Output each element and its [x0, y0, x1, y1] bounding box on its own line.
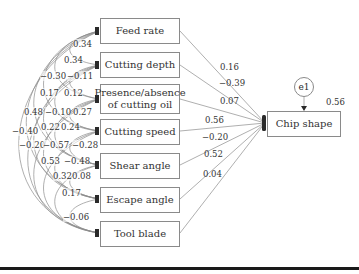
predictor-label-line2: of cutting oil	[108, 99, 173, 111]
correlation-label: 0.08	[72, 171, 91, 181]
correlation-label: 0.34	[64, 55, 83, 65]
correlation-label: 0.27	[73, 107, 92, 117]
predictor-label: Escape angle	[106, 194, 173, 206]
path-coef-cutting-speed: 0.56	[205, 115, 224, 125]
predictor-label: Cutting depth	[105, 59, 176, 71]
path-coef-escape-angle: 0.52	[204, 149, 223, 159]
predictor-box-cutting-depth: Cutting depth	[100, 52, 180, 78]
correlation-label: −0.20	[19, 140, 45, 150]
correlation-label: 0.17	[40, 88, 59, 98]
predictor-label-line1: Presence/absence	[94, 87, 185, 99]
path-coef-cutting-oil: 0.07	[220, 96, 239, 106]
error-term-label: e1	[298, 82, 309, 92]
path-coef-feed-rate: 0.16	[220, 62, 239, 72]
correlation-label: −0.30	[40, 71, 66, 81]
predictor-label: Tool blade	[114, 228, 166, 240]
predictor-label: Shear angle	[109, 160, 170, 172]
correlation-label: 0.48	[24, 107, 43, 117]
correlation-label: 0.24	[61, 122, 80, 132]
correlation-label: −0.40	[12, 126, 38, 136]
correlation-label: −0.06	[63, 212, 89, 222]
predictor-box-escape-angle: Escape angle	[100, 187, 180, 213]
bottom-rule	[0, 267, 359, 270]
r-squared-label: 0.56	[326, 97, 345, 107]
predictor-box-shear-angle: Shear angle	[100, 153, 180, 179]
predictor-label: Feed rate	[116, 25, 165, 37]
outcome-label: Chip shape	[276, 118, 333, 130]
correlation-label: −0.57	[43, 140, 69, 150]
predictor-box-tool-blade: Tool blade	[100, 221, 180, 247]
correlation-label: 0.32	[53, 171, 72, 181]
predictor-box-cutting-speed: Cutting speed	[100, 119, 180, 145]
correlation-label: 0.22	[41, 122, 60, 132]
predictor-box-feed-rate: Feed rate	[100, 18, 180, 44]
path-coef-tool-blade: 0.04	[203, 169, 222, 179]
error-term-circle: e1	[294, 77, 314, 97]
correlation-label: −0.28	[72, 140, 98, 150]
predictor-label: Cutting speed	[104, 126, 175, 138]
correlation-label: 0.34	[73, 39, 92, 49]
correlation-label: −0.48	[64, 156, 90, 166]
outcome-box-chip-shape: Chip shape	[267, 111, 341, 137]
correlation-label: 0.17	[62, 188, 81, 198]
correlation-label: −0.11	[67, 71, 93, 81]
path-coef-cutting-depth: −0.39	[219, 78, 245, 88]
path-coef-shear-angle: −0.20	[202, 132, 228, 142]
predictor-box-cutting-oil: Presence/absence of cutting oil	[100, 84, 180, 114]
correlation-label: 0.12	[64, 88, 83, 98]
correlation-label: 0.53	[41, 156, 60, 166]
correlation-label: −0.10	[45, 107, 71, 117]
